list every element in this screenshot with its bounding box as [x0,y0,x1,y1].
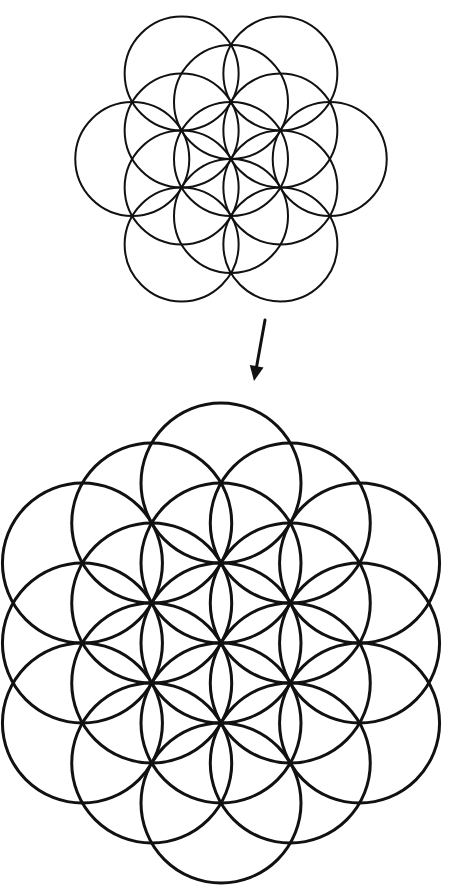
diagram-canvas [0,0,449,893]
bottom-figure-flower-of-life [2,403,439,883]
arrow-head [250,365,264,381]
down-arrow-icon [250,320,265,381]
arrow-shaft [257,320,265,366]
top-figure-seed-of-life [75,17,386,302]
